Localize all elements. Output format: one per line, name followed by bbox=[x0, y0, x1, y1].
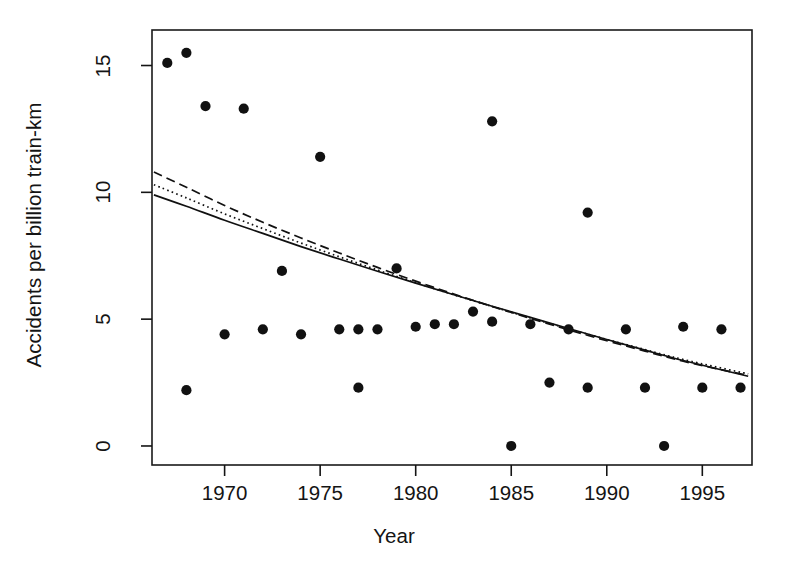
data-point bbox=[735, 383, 745, 393]
data-point bbox=[487, 317, 497, 327]
y-tick-label: 10 bbox=[91, 170, 115, 214]
data-point bbox=[200, 101, 210, 111]
data-point bbox=[449, 319, 459, 329]
x-tick-label: 1975 bbox=[288, 481, 352, 505]
x-tick-label: 1970 bbox=[193, 481, 257, 505]
data-point bbox=[181, 385, 191, 395]
x-tick-label: 1995 bbox=[670, 481, 734, 505]
x-tick-label: 1980 bbox=[384, 481, 448, 505]
axes-frame bbox=[152, 30, 752, 465]
data-point bbox=[220, 329, 230, 339]
data-point bbox=[659, 441, 669, 451]
data-point bbox=[258, 324, 268, 334]
data-point bbox=[411, 322, 421, 332]
axis-ticks bbox=[141, 66, 702, 476]
data-point bbox=[353, 383, 363, 393]
data-point bbox=[334, 324, 344, 334]
y-tick-label: 5 bbox=[91, 297, 115, 341]
data-point bbox=[697, 383, 707, 393]
fit-curve-solid bbox=[154, 195, 748, 376]
y-tick-label: 0 bbox=[91, 424, 115, 468]
data-point bbox=[162, 58, 172, 68]
data-point bbox=[621, 324, 631, 334]
chart-figure: Accidents per billion train-km Year 0510… bbox=[0, 0, 788, 584]
data-points bbox=[162, 48, 745, 451]
data-point bbox=[583, 383, 593, 393]
data-point bbox=[239, 104, 249, 114]
fitted-curves bbox=[154, 172, 748, 376]
y-tick-label: 15 bbox=[91, 44, 115, 88]
data-point bbox=[430, 319, 440, 329]
data-point bbox=[296, 329, 306, 339]
fit-curve-dashed bbox=[154, 172, 748, 375]
x-tick-label: 1985 bbox=[479, 481, 543, 505]
x-tick-label: 1990 bbox=[575, 481, 639, 505]
data-point bbox=[353, 324, 363, 334]
data-point bbox=[181, 48, 191, 58]
data-point bbox=[544, 377, 554, 387]
data-point bbox=[640, 383, 650, 393]
data-point bbox=[315, 152, 325, 162]
data-point bbox=[716, 324, 726, 334]
data-point bbox=[678, 322, 688, 332]
data-point bbox=[506, 441, 516, 451]
data-point bbox=[372, 324, 382, 334]
data-point bbox=[391, 263, 401, 273]
data-point bbox=[525, 319, 535, 329]
data-point bbox=[468, 306, 478, 316]
data-point bbox=[487, 116, 497, 126]
data-point bbox=[563, 324, 573, 334]
data-point bbox=[277, 266, 287, 276]
data-point bbox=[583, 208, 593, 218]
